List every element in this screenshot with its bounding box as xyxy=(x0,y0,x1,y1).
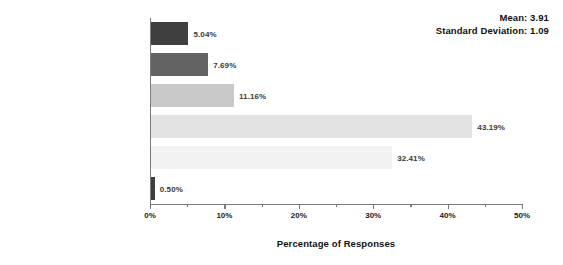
x-tick-minor xyxy=(336,204,337,207)
bar-row: Neither Agree Nor Disagree11.16% xyxy=(150,80,522,111)
bar-row: Strongly Disagree5.04% xyxy=(150,18,522,49)
x-axis-title: Percentage of Responses xyxy=(150,238,522,249)
bar-row: Prefer not to answer0.50% xyxy=(150,173,522,204)
bar xyxy=(151,84,234,107)
bar xyxy=(151,53,208,76)
x-tick-major xyxy=(448,204,449,209)
bar xyxy=(151,146,392,169)
x-tick-minor xyxy=(410,204,411,207)
bar-value-label: 5.04% xyxy=(193,29,216,38)
bar-chart: Mean: 3.91 Standard Deviation: 1.09 Stro… xyxy=(0,0,563,265)
bar-value-label: 43.19% xyxy=(477,122,505,131)
x-tick-major xyxy=(150,204,151,209)
x-tick-label: 0% xyxy=(144,211,156,220)
bar-row: Strongly Agree32.41% xyxy=(150,142,522,173)
plot-area: Strongly Disagree5.04%Disagree7.69%Neith… xyxy=(150,18,522,204)
bar xyxy=(151,115,472,138)
x-tick-label: 10% xyxy=(216,211,232,220)
x-tick-minor xyxy=(485,204,486,207)
x-tick-label: 20% xyxy=(291,211,307,220)
x-tick-major xyxy=(373,204,374,209)
bar xyxy=(151,177,155,200)
bar-value-label: 0.50% xyxy=(160,184,183,193)
bar-row: Agree43.19% xyxy=(150,111,522,142)
x-tick-major xyxy=(224,204,225,209)
x-tick-major xyxy=(522,204,523,209)
bar-value-label: 32.41% xyxy=(397,153,425,162)
x-tick-label: 40% xyxy=(440,211,456,220)
x-tick-minor xyxy=(262,204,263,207)
bar-value-label: 7.69% xyxy=(213,60,236,69)
bar-value-label: 11.16% xyxy=(239,91,266,100)
bar-row: Disagree7.69% xyxy=(150,49,522,80)
bar xyxy=(151,22,188,45)
x-tick-minor xyxy=(187,204,188,207)
x-tick-label: 50% xyxy=(514,211,530,220)
x-tick-label: 30% xyxy=(365,211,381,220)
x-tick-major xyxy=(299,204,300,209)
